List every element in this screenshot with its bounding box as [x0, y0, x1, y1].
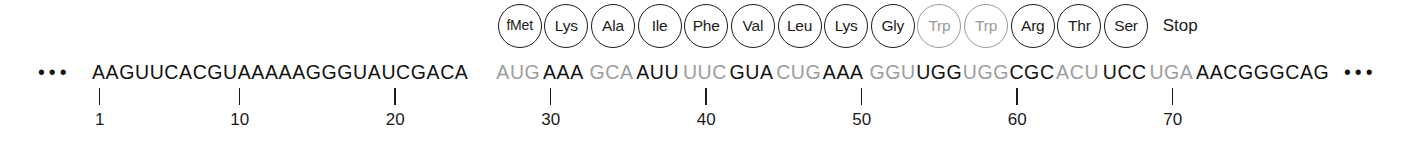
codon-CGC-60: CGC: [1009, 58, 1054, 86]
amino-acid-circle-lys-30: Lys: [544, 4, 588, 48]
trailing-ellipsis: •••: [1344, 58, 1376, 86]
ruler-tick-50: [861, 88, 862, 105]
ruler-tick-10: [239, 88, 240, 105]
untranslated-segment: AACGGGCAG: [1196, 58, 1329, 86]
ruler-tick-70: [1172, 88, 1173, 105]
ruler-tick-label-40: 40: [697, 110, 716, 130]
ruler-tick-30: [550, 88, 551, 105]
stop-codon-label: Stop: [1163, 4, 1198, 48]
nucleotide-position-ruler: 110203040506070: [0, 88, 1423, 148]
codon-UGG-57: UGG: [963, 58, 1009, 86]
amino-acid-circle-trp-57: Trp: [964, 4, 1008, 48]
amino-acid-circle-gly-51: Gly: [871, 4, 915, 48]
ruler-tick-40: [705, 88, 706, 105]
amino-acid-circle-arg-60: Arg: [1011, 4, 1055, 48]
amino-acid-circle-ser-66: Ser: [1104, 4, 1148, 48]
amino-acid-circle-trp-54: Trp: [917, 4, 961, 48]
codon-ACU-63: ACU: [1056, 58, 1099, 86]
codon-AUG-27: AUG: [496, 58, 540, 86]
codon-GCA-33: GCA: [590, 58, 634, 86]
codon-GGU-51: GGU: [870, 58, 916, 86]
mrna-translation-figure: fMetLysAlaIlePheValLeuLysGlyTrpTrpArgThr…: [0, 0, 1423, 150]
ruler-tick-label-60: 60: [1008, 110, 1027, 130]
ruler-tick-label-70: 70: [1163, 110, 1182, 130]
amino-acid-circle-ile-36: Ile: [638, 4, 682, 48]
ruler-tick-label-30: 30: [541, 110, 560, 130]
amino-acid-circle-phe-39: Phe: [684, 4, 728, 48]
ruler-tick-60: [1016, 88, 1017, 105]
codon-UUC-39: UUC: [683, 58, 727, 86]
codon-AUU-36: AUU: [636, 58, 679, 86]
codon-GUA-42: GUA: [730, 58, 774, 86]
amino-acid-circle-lys-48: Lys: [824, 4, 868, 48]
amino-acid-circle-fmet-27: fMet: [498, 4, 542, 48]
ruler-tick-20: [394, 88, 395, 105]
leading-ellipsis: •••: [38, 58, 70, 86]
amino-acid-circle-ala-33: Ala: [591, 4, 635, 48]
ruler-tick-1: [99, 88, 100, 105]
codon-UGG-54: UGG: [916, 58, 962, 86]
amino-acid-circle-leu-45: Leu: [778, 4, 822, 48]
ruler-tick-label-10: 10: [230, 110, 249, 130]
amino-acid-circle-thr-63: Thr: [1057, 4, 1101, 48]
codon-UCC-66: UCC: [1103, 58, 1147, 86]
ruler-tick-label-50: 50: [852, 110, 871, 130]
amino-acid-circle-val-42: Val: [731, 4, 775, 48]
codon-AAA-30: AAA: [543, 58, 584, 86]
codon-CUG-45: CUG: [776, 58, 821, 86]
polypeptide-circle-row: fMetLysAlaIlePheValLeuLysGlyTrpTrpArgThr…: [0, 4, 1423, 52]
ruler-tick-label-1: 1: [95, 110, 104, 130]
untranslated-segment: AAGUUCACGUAAAAAGGGUAUCGACA: [92, 58, 468, 86]
mrna-sequence-row: •••AAGUUCACGUAAAAAGGGUAUCGACAAUGAAAGCAAU…: [0, 58, 1423, 86]
codon-UGA-69: UGA: [1149, 58, 1193, 86]
ruler-tick-label-20: 20: [386, 110, 405, 130]
codon-AAA-48: AAA: [823, 58, 864, 86]
